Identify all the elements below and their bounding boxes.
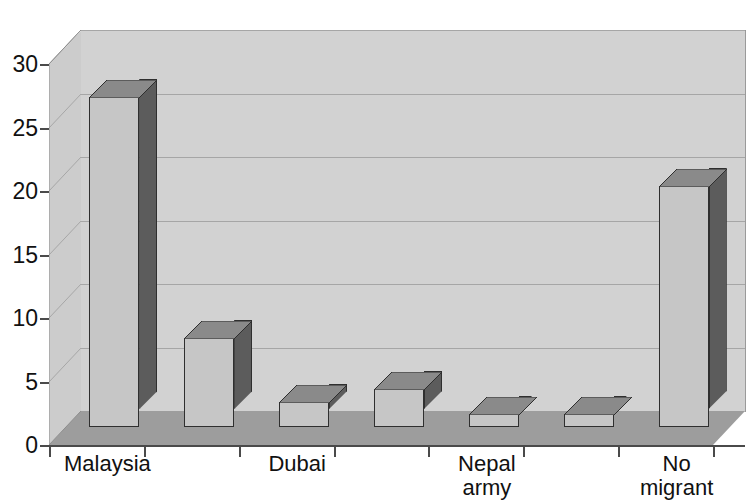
bar (564, 396, 614, 427)
x-tick-label: Malaysia (64, 452, 151, 476)
x-axis-labels: MalaysiaDubaiNepalarmyNomigrant (0, 452, 745, 500)
y-axis: 051015202530 (0, 0, 38, 500)
bar-top-face (89, 80, 157, 98)
bar (469, 396, 519, 427)
bar-front-face (659, 186, 709, 427)
y-tick-mark (40, 255, 49, 257)
y-tick-mark (40, 64, 49, 66)
plot-area (49, 30, 745, 445)
gridline (81, 30, 745, 31)
bar-side-face (709, 168, 727, 409)
y-tick-mark (40, 318, 49, 320)
x-label-line1: No (662, 451, 690, 476)
y-tick-label: 30 (4, 53, 38, 76)
x-tick-label: Dubai (268, 452, 325, 476)
bar-front-face (89, 97, 139, 427)
y-tick-label: 15 (4, 243, 38, 266)
x-label-line2: army (458, 476, 515, 500)
y-tick-label: 5 (4, 370, 38, 393)
x-label-line1: Dubai (268, 451, 325, 476)
bar-front-face (469, 414, 519, 427)
x-tick-label: Nepalarmy (458, 452, 515, 500)
x-tick-label: Nomigrant (640, 452, 713, 500)
bar-top-face (659, 169, 727, 187)
bar (89, 79, 139, 427)
bar-front-face (184, 338, 234, 427)
y-tick-label: 25 (4, 116, 38, 139)
bar (659, 168, 709, 427)
bar-top-face (374, 372, 442, 390)
bar-front-face (564, 414, 614, 427)
left-wall (49, 30, 82, 445)
y-tick-mark (40, 382, 49, 384)
bar-front-face (374, 389, 424, 427)
bar-top-face (279, 385, 347, 403)
y-tick-mark (40, 191, 49, 193)
gridline (81, 157, 745, 158)
bar (184, 320, 234, 427)
x-axis-line (49, 445, 745, 450)
gridline (81, 94, 745, 95)
y-tick-label: 20 (4, 180, 38, 203)
bar-front-face (279, 402, 329, 427)
bar-side-face (139, 79, 157, 409)
gridline (81, 348, 745, 349)
x-label-line1: Malaysia (64, 451, 151, 476)
y-tick-mark (40, 445, 49, 447)
x-label-line2: migrant (640, 476, 713, 500)
chart-title-cropped (0, 0, 745, 8)
y-tick-label: 10 (4, 307, 38, 330)
bar-top-face (184, 321, 252, 339)
bar-top-face (469, 397, 537, 415)
gridline (81, 221, 745, 222)
bar-top-face (564, 397, 632, 415)
gridline (81, 284, 745, 285)
y-tick-mark (40, 128, 49, 130)
x-label-line1: Nepal (458, 451, 515, 476)
bar (374, 371, 424, 427)
bar (279, 384, 329, 427)
